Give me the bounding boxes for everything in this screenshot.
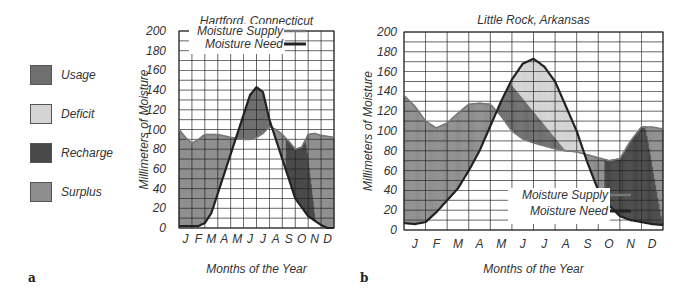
month-label: M — [206, 232, 216, 246]
y-tick-label: 60 — [153, 162, 167, 176]
month-label: M — [453, 237, 463, 251]
line-legend-label: Moisture Supply — [522, 188, 609, 202]
hartford-chart: Hartford, Connecticut0204060801001201401… — [137, 14, 334, 276]
y-tick-label: 40 — [153, 182, 167, 196]
month-label: A — [271, 232, 280, 246]
water-budget-charts: Hartford, Connecticut0204060801001201401… — [0, 0, 691, 293]
y-axis-label: Millimeters of Moisture — [361, 71, 375, 191]
y-axis-label: Millimeters of Moisture — [137, 69, 151, 189]
y-tick-label: 200 — [145, 24, 166, 38]
line-legend: Moisture SupplyMoisture Need — [189, 24, 306, 54]
month-label: S — [583, 237, 591, 251]
line-legend-label: Moisture Need — [530, 204, 608, 218]
line-legend-label: Moisture Need — [205, 37, 283, 51]
month-label: A — [475, 237, 484, 251]
month-label: D — [323, 232, 332, 246]
month-label: A — [561, 237, 570, 251]
y-tick-label: 40 — [384, 183, 398, 197]
y-tick-label: 140 — [377, 84, 397, 98]
month-label: S — [285, 232, 293, 246]
month-label: J — [411, 237, 419, 251]
month-label: N — [626, 237, 635, 251]
month-label: J — [540, 237, 548, 251]
x-axis-label: Months of the Year — [206, 262, 308, 276]
month-label: O — [604, 237, 613, 251]
month-label: M — [232, 232, 242, 246]
month-label: F — [195, 232, 203, 246]
x-axis-label: Months of the Year — [483, 262, 585, 276]
month-label: J — [259, 232, 267, 246]
month-label: D — [648, 237, 657, 251]
month-label: J — [181, 232, 189, 246]
y-tick-label: 0 — [159, 221, 166, 235]
line-legend-label: Moisture Supply — [197, 24, 284, 38]
y-tick-label: 20 — [152, 201, 167, 215]
month-label: A — [219, 232, 228, 246]
y-tick-label: 160 — [377, 65, 397, 79]
month-label: J — [246, 232, 254, 246]
month-label: J — [519, 237, 527, 251]
y-tick-label: 180 — [146, 44, 166, 58]
month-label: M — [496, 237, 506, 251]
y-tick-label: 200 — [376, 25, 397, 39]
y-tick-label: 80 — [384, 144, 398, 158]
y-tick-label: 80 — [153, 142, 167, 156]
month-label: O — [297, 232, 306, 246]
month-label: F — [433, 237, 441, 251]
y-tick-label: 100 — [377, 124, 397, 138]
y-tick-label: 180 — [377, 45, 397, 59]
chart-title: Little Rock, Arkansas — [477, 13, 589, 27]
y-tick-label: 20 — [383, 203, 398, 217]
month-label: N — [310, 232, 319, 246]
little-rock-chart: Little Rock, Arkansas0204060801001201401… — [361, 13, 663, 276]
y-tick-label: 0 — [390, 223, 397, 237]
grid — [179, 31, 334, 228]
y-tick-label: 60 — [384, 164, 398, 178]
y-tick-label: 120 — [377, 104, 397, 118]
